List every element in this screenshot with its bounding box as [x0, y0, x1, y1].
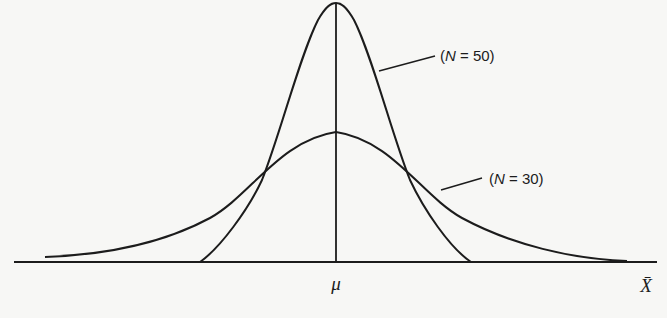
sampling-distribution-figure: (N = 50) (N = 30) μ X̄ [0, 0, 667, 318]
n30-leader-line [441, 178, 482, 190]
mu-label: μ [330, 273, 341, 294]
n50-leader-line [379, 56, 435, 71]
xbar-label: X̄ [639, 275, 653, 296]
n50-label: (N = 50) [440, 47, 495, 64]
n30-label: (N = 30) [489, 170, 544, 187]
